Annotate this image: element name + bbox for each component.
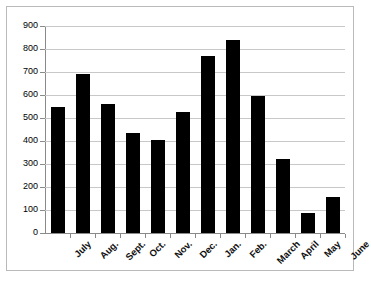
y-axis-label: 100: [10, 205, 38, 214]
x-tick: [220, 234, 221, 238]
gridline-500: [45, 118, 345, 119]
bar: [51, 107, 65, 234]
x-axis-label: May: [322, 239, 342, 259]
x-axis-label: April: [298, 239, 320, 261]
bar: [226, 40, 240, 233]
y-tick-0: [40, 233, 45, 234]
y-axis-label: 700: [10, 67, 38, 76]
y-tick-600: [40, 95, 45, 96]
y-tick-800: [40, 49, 45, 50]
y-axis-label: 400: [10, 136, 38, 145]
x-axis-label: Oct.: [147, 239, 167, 259]
bar: [176, 112, 190, 233]
y-tick-900: [40, 26, 45, 27]
x-tick: [270, 234, 271, 238]
bar: [101, 104, 115, 233]
x-axis-labels: JulyAug.Sept.Oct.Nov.Dec.Jan.Feb.MarchAp…: [45, 239, 345, 273]
x-axis-label: June: [348, 239, 371, 262]
y-axis-label: 600: [10, 90, 38, 99]
y-tick-400: [40, 141, 45, 142]
y-axis-label: 0: [10, 228, 38, 237]
x-axis-label: Feb.: [247, 239, 268, 260]
y-axis-label: 300: [10, 159, 38, 168]
chart-frame: 9008007006005004003002001000 JulyAug.Sep…: [6, 6, 354, 271]
bar: [251, 96, 265, 233]
y-tick-500: [40, 118, 45, 119]
y-axis-label: 200: [10, 182, 38, 191]
gridline-900: [45, 26, 345, 27]
x-tick: [245, 234, 246, 238]
gridline-600: [45, 95, 345, 96]
x-tick: [95, 234, 96, 238]
gridline-200: [45, 187, 345, 188]
x-tick: [320, 234, 321, 238]
x-axis-label: Dec.: [197, 239, 218, 260]
plot-area: [45, 26, 345, 233]
gridline-400: [45, 141, 345, 142]
x-tick: [195, 234, 196, 238]
bar: [301, 213, 315, 233]
gridline-300: [45, 164, 345, 165]
x-tick: [295, 234, 296, 238]
x-tick: [145, 234, 146, 238]
bar: [126, 133, 140, 233]
x-axis-label: Nov.: [172, 239, 193, 260]
bar: [276, 159, 290, 233]
x-tick: [120, 234, 121, 238]
y-tick-200: [40, 187, 45, 188]
bar: [76, 74, 90, 233]
bar: [326, 197, 340, 233]
gridline-800: [45, 49, 345, 50]
y-axis-label: 800: [10, 44, 38, 53]
x-axis-label: Aug.: [98, 239, 120, 261]
bar: [151, 140, 165, 233]
y-tick-100: [40, 210, 45, 211]
x-axis-label: July: [72, 239, 93, 260]
y-axis-labels: 9008007006005004003002001000: [7, 7, 38, 270]
x-axis-label: Sept.: [123, 239, 147, 263]
y-axis-label: 900: [10, 21, 38, 30]
gridline-700: [45, 72, 345, 73]
y-tick-700: [40, 72, 45, 73]
y-axis-label: 500: [10, 113, 38, 122]
x-tick: [70, 234, 71, 238]
x-tick: [170, 234, 171, 238]
gridline-100: [45, 210, 345, 211]
x-tick: [345, 234, 346, 238]
x-axis-label: Jan.: [222, 239, 243, 260]
bar: [201, 56, 215, 233]
y-tick-300: [40, 164, 45, 165]
